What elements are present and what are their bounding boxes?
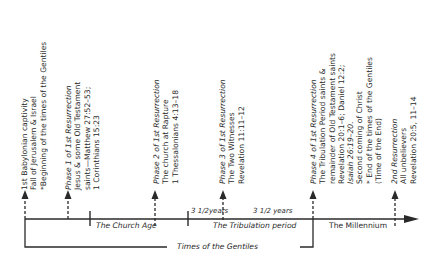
label-millennium: The Millennium — [329, 221, 387, 230]
arrowhead-icon — [65, 190, 72, 199]
gentiles-bracket-right — [300, 219, 313, 247]
label-first-half: 3 1/2years — [191, 207, 228, 215]
arrowhead-icon — [152, 190, 159, 199]
label-second-half: 3 1/2 years — [253, 207, 292, 215]
arrowhead-icon — [220, 190, 227, 199]
arrowhead-icon — [310, 190, 317, 199]
arrowhead-icon — [22, 190, 29, 199]
label-church-age: The Church Age — [96, 221, 157, 230]
timeline-arrowhead-icon — [404, 215, 419, 223]
label-tribulation: The Tribulation period — [213, 221, 296, 230]
label-times-of-gentiles: Times of the Gentiles — [177, 242, 258, 251]
timeline-graphic — [0, 0, 441, 272]
arrowhead-icon — [392, 190, 399, 199]
